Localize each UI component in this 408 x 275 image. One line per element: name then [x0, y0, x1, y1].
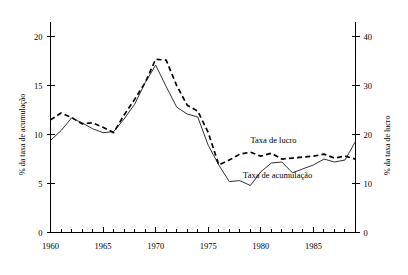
line-chart: 05101520 % da taxa de acumulação 0102030… — [0, 0, 408, 275]
x-axis-group: 196019651970197519801985 — [42, 227, 356, 251]
x-axis-ticks — [51, 227, 356, 233]
x-tick-label: 1985 — [305, 241, 322, 251]
left-axis-group: 05101520 % da taxa de acumulação — [18, 22, 55, 238]
series-line-taxa-de-lucro — [51, 59, 356, 165]
x-tick-label: 1980 — [252, 241, 269, 251]
right-axis-group: 010203040 % da taxa de lucro — [352, 22, 393, 238]
series-label-taxa-de-lucro: Taxa de lucro — [250, 135, 296, 145]
left-axis-tick-labels: 05101520 — [34, 32, 43, 238]
right-tick-label: 30 — [364, 81, 373, 91]
right-tick-label: 10 — [364, 179, 373, 189]
series-group — [51, 59, 356, 185]
right-tick-label: 20 — [364, 130, 373, 140]
right-axis-title: % da taxa de lucro — [383, 115, 392, 175]
left-tick-label: 5 — [38, 179, 42, 189]
right-axis-tick-labels: 010203040 — [364, 32, 373, 238]
chart-container: 05101520 % da taxa de acumulação 0102030… — [0, 0, 408, 275]
left-axis-title: % da taxa de acumulação — [18, 94, 27, 175]
right-tick-label: 40 — [364, 32, 373, 42]
x-axis-tick-labels: 196019651970197519801985 — [42, 241, 322, 251]
x-tick-label: 1970 — [147, 241, 164, 251]
left-tick-label: 0 — [38, 228, 42, 238]
left-tick-label: 15 — [34, 81, 43, 91]
right-tick-label: 0 — [364, 228, 368, 238]
x-tick-label: 1975 — [200, 241, 217, 251]
x-tick-label: 1960 — [42, 241, 59, 251]
left-tick-label: 20 — [34, 32, 43, 42]
left-tick-label: 10 — [34, 130, 43, 140]
series-label-taxa-de-acumula-o: Taxa de acumulação — [243, 170, 312, 180]
x-tick-label: 1965 — [95, 241, 112, 251]
